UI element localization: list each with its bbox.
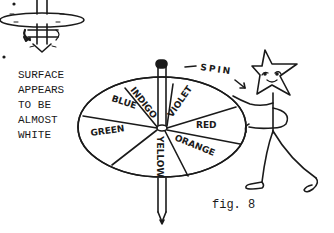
- segment-label-red: RED: [196, 120, 217, 130]
- spin-label: SPIN: [200, 62, 233, 76]
- spinning-top-icon: [0, 0, 84, 58]
- segment-label-yellow: YELLOW: [155, 135, 165, 177]
- note-line: SURFACE: [18, 68, 98, 83]
- note-line: ALMOST: [18, 113, 98, 128]
- figure-canvas: INDIGO VIOLET RED ORANGE YELLOW GREEN BL…: [0, 0, 334, 233]
- surface-note: SURFACE APPEARS TO BE ALMOST WHITE: [18, 68, 98, 143]
- star-head: [252, 50, 297, 95]
- note-line: WHITE: [18, 128, 98, 143]
- figure-label: fig. 8: [212, 198, 255, 213]
- note-line: APPEARS: [18, 83, 98, 98]
- note-line: TO BE: [18, 98, 98, 113]
